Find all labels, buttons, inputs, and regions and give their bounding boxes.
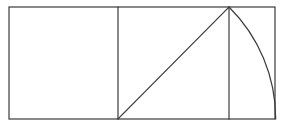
golden-rectangle-diagram [0,0,283,127]
